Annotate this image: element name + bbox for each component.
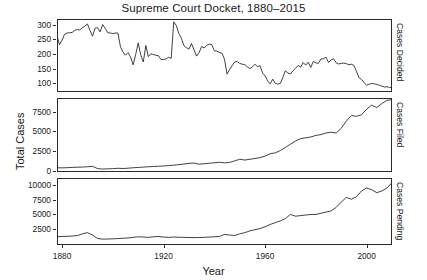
y-tick-mark bbox=[53, 200, 56, 201]
y-tick-mark bbox=[53, 171, 56, 172]
x-axis-label: Year bbox=[0, 265, 427, 277]
x-tick-mark bbox=[265, 245, 266, 248]
y-tick-mark bbox=[53, 214, 56, 215]
chart-root: Supreme Court Docket, 1880–2015 Total Ca… bbox=[0, 0, 427, 280]
panel-cases-filed bbox=[57, 98, 392, 172]
y-tick-mark bbox=[53, 131, 56, 132]
y-tick-mark bbox=[53, 185, 56, 186]
y-tick-label: 10000 bbox=[28, 180, 51, 190]
panel-side-label: Cases Filed bbox=[395, 102, 405, 147]
panel-side-label: Cases Pending bbox=[395, 182, 405, 240]
panel-plot-area-2 bbox=[57, 178, 392, 245]
x-tick-label: 2000 bbox=[347, 251, 387, 261]
x-tick-mark bbox=[367, 245, 368, 248]
panel-cases-pending bbox=[57, 178, 392, 245]
panel-plot-area-1 bbox=[57, 98, 392, 172]
y-tick-mark bbox=[53, 54, 56, 55]
x-tick-mark bbox=[164, 245, 165, 248]
y-tick-mark bbox=[53, 112, 56, 113]
x-tick-label: 1880 bbox=[42, 251, 82, 261]
series-line-cases-filed bbox=[57, 100, 392, 169]
x-tick-mark bbox=[62, 245, 63, 248]
y-tick-label: 150 bbox=[37, 64, 51, 74]
y-axis-label: Total Cases bbox=[14, 113, 26, 170]
y-tick-mark bbox=[53, 25, 56, 26]
x-tick-label: 1920 bbox=[144, 251, 184, 261]
y-tick-mark bbox=[53, 83, 56, 84]
y-tick-label: 250 bbox=[37, 34, 51, 44]
y-tick-mark bbox=[53, 229, 56, 230]
y-tick-mark bbox=[53, 69, 56, 70]
y-tick-label: 7500 bbox=[33, 107, 51, 117]
y-tick-label: 5000 bbox=[33, 209, 51, 219]
panel-frame bbox=[58, 20, 392, 92]
y-tick-label: 2500 bbox=[33, 224, 51, 234]
x-tick-label: 1960 bbox=[245, 251, 285, 261]
panel-side-label: Cases Decided bbox=[395, 23, 405, 81]
y-tick-mark bbox=[53, 151, 56, 152]
y-tick-label: 0 bbox=[46, 166, 51, 176]
y-tick-label: 100 bbox=[37, 78, 51, 88]
y-tick-mark bbox=[53, 39, 56, 40]
y-tick-label: 7500 bbox=[33, 195, 51, 205]
series-line-cases-pending bbox=[57, 183, 392, 239]
y-tick-label: 5000 bbox=[33, 126, 51, 136]
panel-cases-decided bbox=[57, 19, 392, 92]
y-tick-label: 300 bbox=[37, 20, 51, 30]
y-tick-label: 200 bbox=[37, 49, 51, 59]
series-line-cases-decided bbox=[57, 22, 392, 88]
chart-title: Supreme Court Docket, 1880–2015 bbox=[0, 2, 427, 14]
panel-frame bbox=[58, 99, 392, 172]
panel-plot-area-0 bbox=[57, 19, 392, 92]
y-tick-label: 2500 bbox=[33, 146, 51, 156]
